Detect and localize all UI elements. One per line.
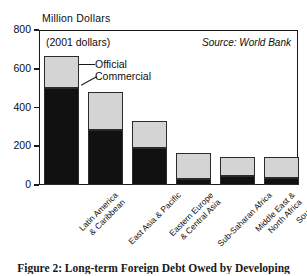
- leader-line-official: [79, 64, 95, 65]
- bar-segment-commercial: [44, 88, 79, 185]
- bar-sub-saharan-africa: [176, 153, 211, 185]
- bar-segment-commercial: [220, 176, 255, 185]
- y-axis-title: Million Dollars: [42, 12, 110, 24]
- bar-south-asia: [264, 157, 299, 185]
- bar-east-asia-pacific: [88, 92, 123, 185]
- bar-middle-east-north-africa: [220, 157, 255, 185]
- x-label-latin-america-caribbean: Latin America & Caribbean: [77, 190, 127, 240]
- bar-segment-commercial: [88, 130, 123, 185]
- bar-segment-commercial: [264, 178, 299, 185]
- bar-segment-official: [132, 121, 167, 148]
- bars-layer: [39, 30, 298, 185]
- x-axis-labels: Latin America & Caribbean East Asia & Pa…: [0, 186, 307, 250]
- y-tick-label: 200: [13, 139, 31, 151]
- y-tick-label: 600: [13, 62, 31, 74]
- bar-segment-official: [220, 157, 255, 176]
- bar-segment-official: [264, 157, 299, 178]
- bar-segment-official: [176, 153, 211, 178]
- figure-caption: Figure 2: Long-term Foreign Debt Owed by…: [0, 262, 307, 274]
- bar-segment-commercial: [176, 179, 211, 185]
- figure-container: Million Dollars (2001 dollars) Source: W…: [0, 0, 307, 276]
- bar-eastern-europe-central-asia: [132, 121, 167, 185]
- series-label-commercial: Commercial: [95, 70, 151, 82]
- series-label-official: Official: [95, 58, 127, 70]
- bar-segment-official: [44, 56, 79, 88]
- y-tick-label: 400: [13, 101, 31, 113]
- bar-segment-commercial: [132, 148, 167, 185]
- bar-latin-america-caribbean: [44, 56, 79, 185]
- bar-segment-official: [88, 92, 123, 130]
- y-tick-label: 800: [13, 23, 31, 35]
